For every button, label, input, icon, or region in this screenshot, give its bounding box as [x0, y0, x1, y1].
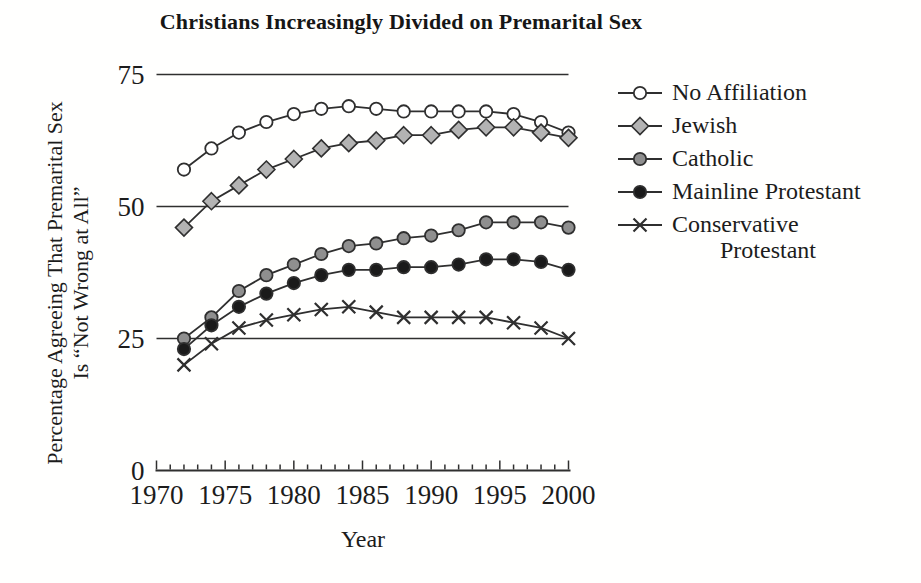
series-catholic-marker-1988 — [398, 232, 410, 244]
series-catholic-marker-1976 — [233, 285, 245, 297]
series-no-affiliation-marker-1976 — [233, 126, 245, 138]
legend-label-mainline-protestant: Mainline Protestant — [672, 178, 861, 204]
series-mainline-protestant-marker-1988 — [398, 261, 410, 273]
legend-item-conservative-protestant: ConservativeProtestant — [617, 211, 917, 263]
legend-label-mainline-protestant-line1: Mainline Protestant — [672, 178, 861, 204]
series-catholic-marker-1980 — [288, 258, 300, 270]
series-jewish-marker-1998 — [533, 124, 550, 141]
x-axis-title: Year — [341, 526, 385, 553]
series-conservative-protestant-marker-1976 — [232, 321, 245, 334]
series-catholic-marker-1990 — [425, 229, 437, 241]
x-tick-label-1970: 1970 — [130, 480, 184, 510]
x-tick-label-1980: 1980 — [267, 480, 321, 510]
y-axis-title: Percentage Agreeing That Premarital Sex … — [42, 101, 94, 465]
legend-label-catholic: Catholic — [672, 145, 753, 171]
series-jewish-marker-1980 — [285, 150, 302, 167]
series-no-affiliation-marker-1992 — [452, 105, 464, 117]
series-mainline-protestant-marker-1990 — [425, 261, 437, 273]
series-jewish-marker-1984 — [340, 135, 357, 152]
series-jewish-marker-1976 — [230, 177, 247, 194]
series-jewish-marker-1986 — [368, 132, 385, 149]
series-no-affiliation-marker-1982 — [315, 103, 327, 115]
legend-marker-conservative-protestant-icon — [617, 214, 663, 236]
legend-item-no-affiliation: No Affiliation — [617, 79, 917, 105]
y-axis-title-line1: Percentage Agreeing That Premarital Sex — [42, 101, 68, 465]
series-mainline-protestant-marker-1994 — [480, 253, 492, 265]
series-jewish-marker-1994 — [478, 119, 495, 136]
legend-label-no-affiliation: No Affiliation — [672, 79, 807, 105]
series-conservative-protestant-line — [184, 307, 569, 365]
series-mainline-protestant-marker-1982 — [315, 269, 327, 281]
series-catholic-marker-2000 — [562, 221, 574, 233]
series-no-affiliation-marker-1978 — [260, 116, 272, 128]
series-catholic-marker-1998 — [535, 216, 547, 228]
y-tick-label-50: 50 — [118, 192, 145, 222]
x-tick-label-1975: 1975 — [198, 480, 252, 510]
legend-label-no-affiliation-line1: No Affiliation — [672, 79, 807, 105]
series-jewish-marker-1988 — [395, 127, 412, 144]
legend-symbol-jewish — [632, 118, 649, 135]
series-mainline-protestant-marker-1976 — [233, 301, 245, 313]
series-conservative-protestant-marker-1972 — [177, 358, 190, 371]
series-jewish-marker-1978 — [258, 161, 275, 178]
x-tick-label-1985: 1985 — [336, 480, 390, 510]
y-axis-title-line2: Is “Not Wrong at All” — [68, 101, 94, 465]
series-catholic-marker-1986 — [370, 237, 382, 249]
legend-label-conservative-protestant: ConservativeProtestant — [672, 211, 816, 263]
legend-symbol-catholic — [634, 153, 646, 165]
series-no-affiliation-marker-1984 — [343, 100, 355, 112]
legend-symbol-no-affiliation — [634, 87, 646, 99]
series-catholic-marker-1978 — [260, 269, 272, 281]
series-mainline-protestant-marker-1998 — [535, 256, 547, 268]
series-catholic-marker-1994 — [480, 216, 492, 228]
legend-item-jewish: Jewish — [617, 112, 917, 138]
legend-item-catholic: Catholic — [617, 145, 917, 171]
series-mainline-protestant-marker-1996 — [507, 253, 519, 265]
legend-label-jewish-line1: Jewish — [672, 112, 737, 138]
series-catholic-marker-1996 — [507, 216, 519, 228]
series-mainline-protestant-marker-1972 — [178, 343, 190, 355]
series-mainline-protestant-marker-2000 — [562, 264, 574, 276]
series-no-affiliation-marker-1972 — [178, 163, 190, 175]
series-mainline-protestant-marker-1974 — [205, 319, 217, 331]
y-tick-label-25: 25 — [118, 324, 145, 354]
figure: Christians Increasingly Divided on Prema… — [0, 0, 921, 583]
legend-marker-no-affiliation-icon — [617, 82, 663, 104]
series-mainline-protestant-marker-1984 — [343, 264, 355, 276]
series-no-affiliation-marker-1986 — [370, 103, 382, 115]
legend-label-jewish: Jewish — [672, 112, 737, 138]
series-catholic-marker-1992 — [452, 224, 464, 236]
series-no-affiliation-marker-1990 — [425, 105, 437, 117]
legend-label-catholic-line1: Catholic — [672, 145, 753, 171]
series-mainline-protestant-marker-1992 — [452, 258, 464, 270]
series-jewish-marker-1982 — [313, 140, 330, 157]
series-catholic-marker-1982 — [315, 248, 327, 260]
series-no-affiliation-marker-1980 — [288, 108, 300, 120]
x-tick-label-1995: 1995 — [473, 480, 527, 510]
series-jewish-marker-1992 — [450, 121, 467, 138]
legend-symbol-mainline-protestant — [634, 186, 646, 198]
x-tick-label-1990: 1990 — [404, 480, 458, 510]
legend-label-conservative-protestant-line2: Protestant — [672, 237, 816, 263]
series-mainline-protestant-marker-1986 — [370, 264, 382, 276]
legend-marker-jewish-icon — [617, 115, 663, 137]
series-no-affiliation-marker-1974 — [205, 142, 217, 154]
legend-marker-catholic-icon — [617, 148, 663, 170]
series-mainline-protestant-marker-1980 — [288, 277, 300, 289]
series-catholic-marker-1984 — [343, 240, 355, 252]
series-jewish-marker-1996 — [505, 119, 522, 136]
series-no-affiliation-marker-1988 — [398, 105, 410, 117]
series-mainline-protestant-marker-1978 — [260, 287, 272, 299]
y-tick-label-75: 75 — [118, 60, 145, 90]
x-tick-label-2000: 2000 — [542, 480, 596, 510]
series-jewish-marker-1990 — [423, 127, 440, 144]
legend-label-conservative-protestant-line1: Conservative — [672, 211, 816, 237]
legend: No AffiliationJewishCatholicMainline Pro… — [617, 79, 917, 270]
series-no-affiliation-marker-1994 — [480, 105, 492, 117]
legend-item-mainline-protestant: Mainline Protestant — [617, 178, 917, 204]
legend-marker-mainline-protestant-icon — [617, 181, 663, 203]
